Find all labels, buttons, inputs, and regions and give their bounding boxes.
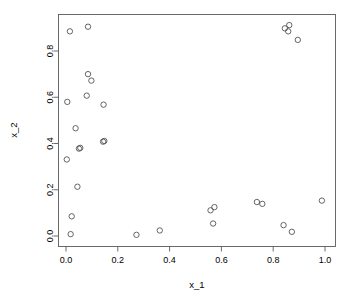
x-tick-label: 0.6 <box>215 255 228 265</box>
x-axis-title: x_1 <box>189 279 204 290</box>
y-tick-label: 0.0 <box>45 230 55 243</box>
plot-canvas: 0.00.20.40.60.81.0 0.00.20.40.60.8 x_1 x… <box>0 0 350 302</box>
x-tick-label: 0.0 <box>60 255 73 265</box>
scatter-plot-figure: 0.00.20.40.60.81.0 0.00.20.40.60.8 x_1 x… <box>0 0 350 302</box>
x-tick-label: 0.8 <box>267 255 280 265</box>
x-tick-label: 0.4 <box>163 255 176 265</box>
y-tick-label: 0.4 <box>45 137 55 150</box>
y-tick-label: 0.8 <box>45 45 55 58</box>
y-axis-title: x_2 <box>8 122 19 137</box>
x-tick-label: 0.2 <box>112 255 125 265</box>
x-tick-label: 1.0 <box>319 255 332 265</box>
y-tick-label: 0.2 <box>45 183 55 196</box>
y-tick-label: 0.6 <box>45 91 55 104</box>
